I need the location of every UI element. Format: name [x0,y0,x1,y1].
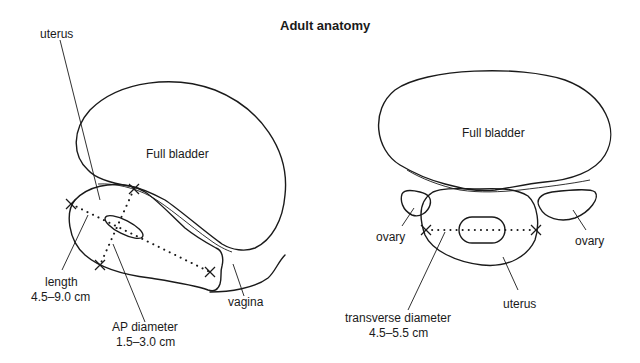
uterus-transverse [421,189,538,266]
length-value: 4.5–9.0 cm [31,290,90,304]
ovary-right [538,190,596,220]
diagram-title: Adult anatomy [280,18,371,33]
transverse-leader [408,232,445,310]
uterus-wall-line [98,184,232,252]
ovary-right-label: ovary [575,234,604,248]
bladder-label: Full bladder [146,147,209,161]
uterus-leader [60,40,100,200]
endometrium-ellipse [102,211,146,243]
transverse-label: transverse diameter [345,311,451,325]
length-label: length [45,275,78,289]
uterus-label: uterus [40,27,73,41]
sagittal-view: uterus Full bladder length 4.5–9.0 cm AP… [31,27,286,349]
uterus-sagittal [69,185,222,291]
marker-cross [205,267,215,277]
uterus-label-transverse: uterus [503,297,536,311]
ap-value: 1.5–3.0 cm [116,335,175,349]
marker-cross [421,225,431,235]
ovary-left-label: ovary [376,230,405,244]
ap-label: AP diameter [112,320,178,334]
transverse-view: Full bladder ovary ovary uterus transver… [345,71,611,340]
transverse-value: 4.5–5.5 cm [369,326,428,340]
vagina-label: vagina [228,295,264,309]
length-leader [62,215,88,270]
vagina-leader [233,264,244,296]
anatomy-diagram: Adult anatomy [0,0,640,363]
marker-cross [531,225,541,235]
bladder-label-transverse: Full bladder [462,126,525,140]
ovary-left [401,191,430,216]
ap-leader [113,244,145,322]
marker-cross [95,260,105,270]
ovary-left-leader [402,208,414,226]
